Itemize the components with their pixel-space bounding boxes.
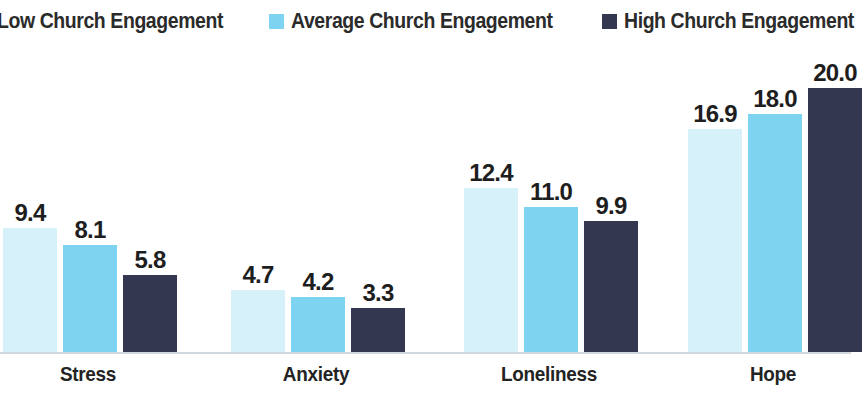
bar-value-label: 9.4 <box>15 201 46 225</box>
category-label-loneliness: Loneliness <box>468 362 630 386</box>
bar-value-label: 5.8 <box>135 248 166 272</box>
bar-value-label: 9.9 <box>596 194 627 218</box>
axis-baseline <box>0 352 851 354</box>
bar-stress-low[interactable]: 9.4 <box>3 228 57 352</box>
bar-stress-average[interactable]: 8.1 <box>63 245 117 352</box>
bar-value-label: 3.3 <box>363 281 394 305</box>
bar-value-label: 16.9 <box>693 102 737 126</box>
category-label-hope: Hope <box>692 362 854 386</box>
bar-value-label: 12.4 <box>469 161 513 185</box>
bar-anxiety-high[interactable]: 3.3 <box>351 308 405 352</box>
bar-value-label: 4.7 <box>243 263 274 287</box>
bar-stress-high[interactable]: 5.8 <box>123 275 177 352</box>
bar-value-label: 11.0 <box>530 180 572 204</box>
bar-anxiety-average[interactable]: 4.2 <box>291 297 345 352</box>
bar-anxiety-low[interactable]: 4.7 <box>231 290 285 352</box>
category-label-anxiety: Anxiety <box>235 362 397 386</box>
bar-hope-high[interactable]: 20.0 <box>808 88 862 352</box>
bar-hope-low[interactable]: 16.9 <box>688 129 742 352</box>
bar-value-label: 8.1 <box>75 218 106 242</box>
bar-value-label: 4.2 <box>303 270 334 294</box>
category-label-stress: Stress <box>7 362 169 386</box>
bar-hope-average[interactable]: 18.0 <box>748 114 802 352</box>
bar-value-label: 20.0 <box>813 61 857 85</box>
bar-loneliness-average[interactable]: 11.0 <box>524 207 578 352</box>
bar-loneliness-low[interactable]: 12.4 <box>464 188 518 352</box>
bar-value-label: 18.0 <box>753 87 797 111</box>
bar-loneliness-high[interactable]: 9.9 <box>584 221 638 352</box>
